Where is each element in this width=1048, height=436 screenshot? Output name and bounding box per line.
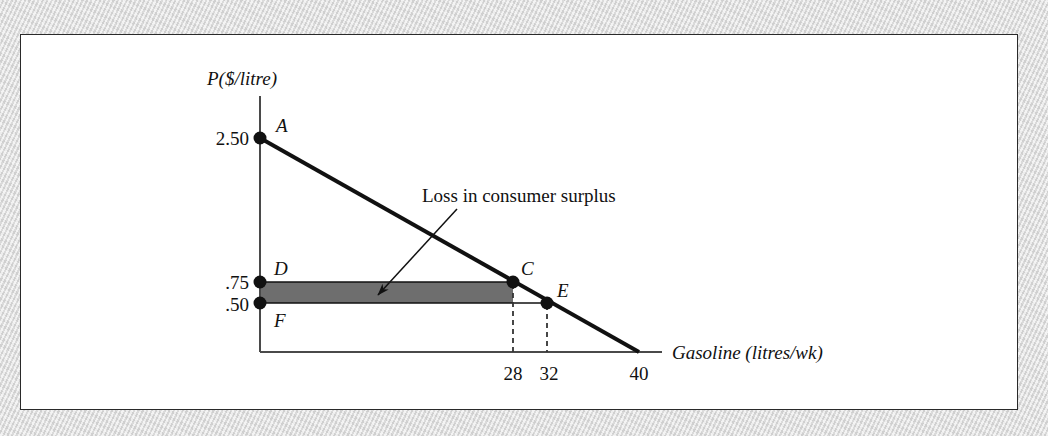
x-tick-label-40: 40 bbox=[630, 363, 649, 384]
point-label-e: E bbox=[556, 280, 569, 301]
figure-frame-border: P($/litre) Gasoline (litres/wk) 2.50 .75… bbox=[20, 34, 1018, 410]
y-tick-label-050: .50 bbox=[225, 294, 249, 315]
data-point-e bbox=[541, 297, 554, 310]
point-label-f: F bbox=[273, 310, 286, 331]
annotation-loss-in-consumer-surplus: Loss in consumer surplus bbox=[422, 185, 616, 206]
y-tick-label-075: .75 bbox=[225, 272, 249, 293]
data-point-c bbox=[507, 276, 520, 289]
diagram-canvas: P($/litre) Gasoline (litres/wk) 2.50 .75… bbox=[21, 35, 1019, 411]
point-label-d: D bbox=[273, 258, 288, 279]
data-point-f bbox=[254, 297, 267, 310]
data-point-a bbox=[254, 132, 267, 145]
y-tick-label-250: 2.50 bbox=[216, 128, 249, 149]
y-axis-title: P($/litre) bbox=[206, 68, 277, 90]
point-label-c: C bbox=[521, 258, 534, 279]
demand-curve-line bbox=[260, 138, 639, 352]
x-tick-label-28: 28 bbox=[504, 363, 523, 384]
x-tick-label-32: 32 bbox=[540, 363, 559, 384]
data-point-d bbox=[254, 276, 267, 289]
point-label-a: A bbox=[274, 115, 288, 136]
x-axis-title: Gasoline (litres/wk) bbox=[672, 342, 823, 364]
figure-root: P($/litre) Gasoline (litres/wk) 2.50 .75… bbox=[0, 0, 1048, 436]
